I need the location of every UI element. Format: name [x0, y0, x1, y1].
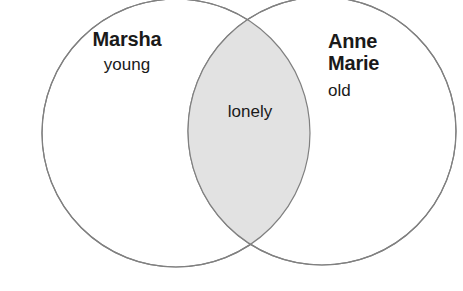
left-set-attribute: young — [62, 55, 192, 74]
right-set-label-group: Anne Marie old — [328, 30, 438, 100]
intersection-label-group: lonely — [194, 102, 306, 121]
venn-diagram: Marsha young Anne Marie old lonely — [0, 0, 463, 291]
left-set-name: Marsha — [62, 28, 192, 50]
intersection-attribute: lonely — [194, 102, 306, 121]
right-set-name-line-1: Anne — [328, 30, 438, 52]
left-set-label-group: Marsha young — [62, 28, 192, 74]
right-set-name-line-2: Marie — [328, 52, 438, 74]
right-set-attribute: old — [328, 81, 438, 100]
